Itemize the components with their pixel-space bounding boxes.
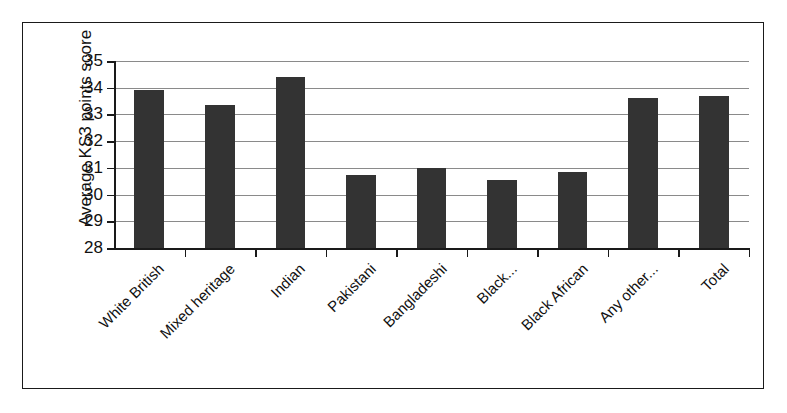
- bar: [134, 90, 164, 248]
- y-tick-mark: [107, 168, 114, 170]
- y-tick-mark: [107, 248, 114, 250]
- y-tick-label: 31: [84, 158, 103, 178]
- plot-area: 3534333231302928 White BritishMixed heri…: [114, 61, 749, 248]
- y-tick-mark: [107, 114, 114, 116]
- bar: [487, 180, 517, 248]
- gridline: [114, 61, 749, 62]
- x-tick-label: Black...: [473, 260, 520, 307]
- x-tick-label: Total: [697, 260, 731, 294]
- y-tick-mark: [107, 221, 114, 223]
- bar: [558, 172, 588, 248]
- y-tick-label: 29: [84, 211, 103, 231]
- y-tick-label: 28: [84, 238, 103, 258]
- chart-figure-frame: Average KS3 points score 353433323130292…: [22, 22, 764, 389]
- y-axis-title: Average KS3 points score: [76, 13, 96, 243]
- y-tick-label: 35: [84, 51, 103, 71]
- y-tick-mark: [107, 141, 114, 143]
- y-tick-mark: [107, 61, 114, 63]
- y-axis-line: [114, 61, 116, 248]
- bar: [417, 168, 447, 248]
- y-tick-mark: [107, 195, 114, 197]
- y-tick-label: 32: [84, 131, 103, 151]
- x-tick-label: Black African: [517, 260, 590, 333]
- x-tick-label: White British: [96, 260, 168, 332]
- bar: [276, 77, 306, 248]
- x-axis-line: [114, 248, 749, 250]
- x-tick-mark: [749, 248, 750, 257]
- bar: [699, 96, 729, 248]
- x-tick-label: Indian: [267, 260, 308, 301]
- bar: [628, 98, 658, 248]
- y-tick-label: 30: [84, 185, 103, 205]
- x-tick-label: Bangladeshi: [379, 260, 449, 330]
- x-tick-label: Mixed heritage: [156, 260, 238, 342]
- bar: [205, 105, 235, 248]
- x-tick-label: Pakistani: [324, 260, 379, 315]
- gridline: [114, 88, 749, 89]
- y-tick-label: 33: [84, 104, 103, 124]
- x-tick-label: Any other...: [595, 260, 661, 326]
- y-tick-mark: [107, 88, 114, 90]
- screenshot-root: Average KS3 points score 353433323130292…: [0, 0, 787, 413]
- y-tick-label: 34: [84, 78, 103, 98]
- bar: [346, 175, 376, 248]
